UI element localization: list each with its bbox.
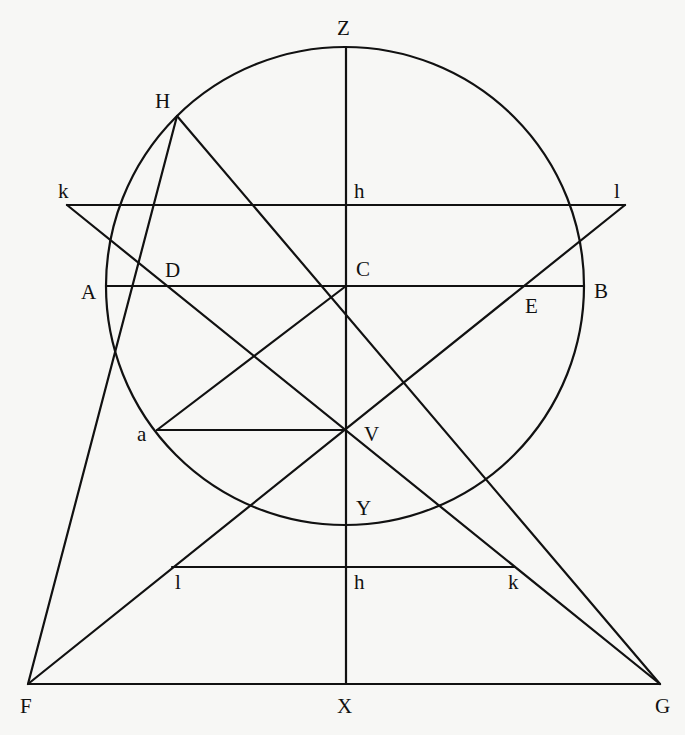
label-y: Y xyxy=(356,496,371,520)
label-k-lower: k xyxy=(508,570,519,594)
label-x: X xyxy=(337,694,352,718)
line-h-f xyxy=(28,116,177,684)
label-g: G xyxy=(655,694,670,718)
geometry-diagram: Z H k h l D A C E B a V Y l h k F X G xyxy=(0,0,685,735)
label-a-lower: a xyxy=(137,422,147,446)
line-h-g xyxy=(177,116,660,684)
label-k-upper: k xyxy=(58,179,69,203)
label-f: F xyxy=(20,694,32,718)
label-h-upper: h xyxy=(354,179,365,203)
label-b: B xyxy=(594,279,608,303)
label-a-upper: A xyxy=(81,280,97,304)
label-h-lower: h xyxy=(354,570,365,594)
label-l-upper: l xyxy=(614,179,620,203)
label-h-point: H xyxy=(155,89,170,113)
label-d: D xyxy=(165,258,180,282)
label-v: V xyxy=(364,422,379,446)
label-l-lower: l xyxy=(175,570,181,594)
line-l-f xyxy=(28,205,625,684)
label-c: C xyxy=(356,257,370,281)
label-z: Z xyxy=(337,16,350,40)
label-e: E xyxy=(525,294,538,318)
